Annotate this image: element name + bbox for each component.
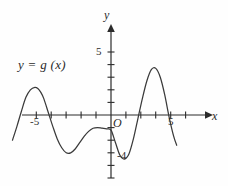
x-tick-label-positive-five: 5 (168, 116, 174, 127)
y-tick-label-negative-four: -4 (117, 150, 126, 161)
y-axis-arrow-icon (107, 24, 115, 32)
function-label: y = g (x) (18, 58, 66, 71)
x-tick-label-negative-five: -5 (30, 116, 39, 127)
y-axis-label: y (104, 9, 109, 21)
coordinate-plot (0, 0, 228, 186)
function-curve-g (12, 68, 176, 159)
y-tick-label-five: 5 (96, 46, 102, 57)
graph-figure: y = g (x) y x O -5 5 5 -4 (0, 0, 228, 186)
x-axis-label: x (212, 110, 217, 122)
y-axis (107, 24, 115, 178)
origin-label: O (113, 117, 122, 129)
